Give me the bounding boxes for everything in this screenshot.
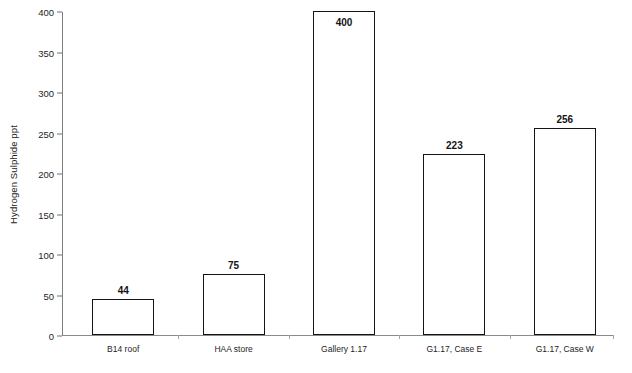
plot-area: 4475400223256	[62, 12, 614, 336]
x-axis-category-label: G1.17, Case E	[427, 344, 483, 354]
bar-value-label: 256	[556, 114, 573, 125]
x-axis-tick-mark	[399, 335, 400, 339]
bar-value-label: 75	[228, 260, 239, 271]
y-axis-tick-label: 400	[38, 7, 54, 18]
bar	[423, 154, 485, 335]
y-axis-line	[62, 12, 63, 336]
bar	[313, 11, 375, 335]
bar	[203, 274, 265, 335]
y-axis-tick-label: 150	[38, 209, 54, 220]
x-axis-category-label: G1.17, Case W	[536, 344, 594, 354]
y-axis-tick-label: 250	[38, 128, 54, 139]
y-axis-tick-label: 100	[38, 250, 54, 261]
y-axis-tick-label: 0	[49, 331, 54, 342]
y-axis-tick-label: 350	[38, 47, 54, 58]
bar	[92, 299, 154, 335]
y-axis-tick-label: 300	[38, 88, 54, 99]
x-axis-line	[62, 335, 614, 336]
y-axis-title-text: Hydrogen Sulphide ppt	[8, 125, 19, 224]
y-axis: 050100150200250300350400	[22, 0, 62, 348]
x-axis-tick-mark	[510, 335, 511, 339]
bar-value-label: 400	[336, 17, 353, 28]
bar-value-label: 223	[446, 140, 463, 151]
bar	[534, 128, 596, 335]
x-axis-tick-mark	[178, 335, 179, 339]
y-axis-tick-label: 200	[38, 169, 54, 180]
x-axis-category-label: Gallery 1.17	[321, 344, 367, 354]
y-axis-title: Hydrogen Sulphide ppt	[2, 0, 24, 348]
bar-value-label: 44	[118, 285, 129, 296]
x-axis-tick-mark	[289, 335, 290, 339]
x-axis-category-label: HAA store	[214, 344, 252, 354]
x-axis-end-tick	[613, 335, 614, 339]
bar-chart: Hydrogen Sulphide ppt 050100150200250300…	[0, 0, 632, 373]
x-axis-labels: B14 roofHAA storeGallery 1.17G1.17, Case…	[62, 340, 614, 360]
y-axis-tick-label: 50	[43, 290, 54, 301]
x-axis-category-label: B14 roof	[107, 344, 139, 354]
